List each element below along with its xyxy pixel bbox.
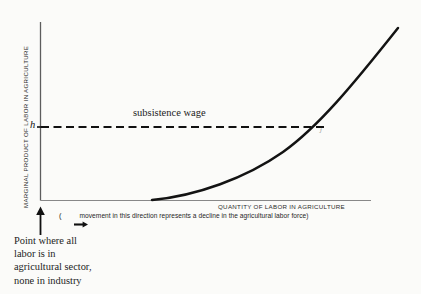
origin-caption: Point where all labor is in agricultural… [14, 234, 91, 287]
y-axis-title: MARGINAL PRODUCT OF LABOR IN AGRICULTURE [22, 8, 29, 208]
direction-note-text: movement in this direction represents a … [80, 212, 309, 220]
figure-container: MARGINAL PRODUCT OF LABOR IN AGRICULTURE… [0, 0, 421, 294]
right-arrow-icon [63, 213, 77, 220]
x-axis-title: QUANTITY OF LABOR IN AGRICULTURE [218, 203, 345, 210]
subsistence-wage-label: subsistence wage [133, 107, 206, 119]
intersection-point-label: j [320, 126, 322, 134]
direction-note: ( movement in this direction represents … [59, 212, 309, 221]
up-arrow-icon [36, 207, 45, 236]
direction-note-open-paren: ( [59, 212, 62, 221]
y-tick-label-h: h [30, 119, 35, 131]
